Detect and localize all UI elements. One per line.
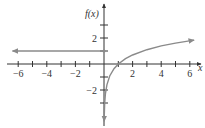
- y-tick-label: −2: [86, 85, 97, 96]
- piecewise-function-graph: −6−4−2246 x 2−2 f(x): [0, 0, 205, 128]
- series-layer: [13, 40, 195, 121]
- logarithmic-curve: [104, 40, 194, 121]
- x-tick-label: −6: [13, 68, 24, 79]
- y-axis-label: f(x): [85, 8, 100, 20]
- x-tick-label: −4: [41, 68, 52, 79]
- closed-endpoint-dot: [102, 49, 105, 52]
- x-tick-label: 4: [159, 68, 164, 79]
- x-tick-label: 2: [130, 68, 135, 79]
- x-tick-label: 6: [187, 68, 192, 79]
- x-axis-label: x: [197, 62, 203, 73]
- x-tick-label: −2: [70, 68, 81, 79]
- x-axis: −6−4−2246 x: [7, 61, 203, 79]
- y-tick-label: 2: [92, 33, 97, 44]
